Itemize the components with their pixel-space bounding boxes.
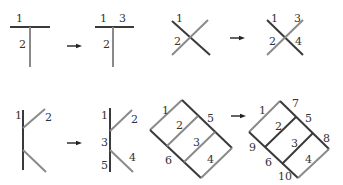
segment-label: 5 <box>101 159 108 172</box>
arrow-right-icon <box>231 114 246 118</box>
segment-label: 7 <box>292 97 299 110</box>
segment-label: 2 <box>174 35 181 48</box>
segment-label: 6 <box>165 154 172 167</box>
k-junction-after: 1 2 3 4 5 <box>101 108 138 172</box>
segment-label: 5 <box>207 112 214 125</box>
segment-label: 2 <box>176 119 183 132</box>
segment-label: 1 <box>101 109 108 122</box>
edge-bottom-right <box>298 149 329 178</box>
lower-branch <box>23 150 46 172</box>
segment-label: 9 <box>249 141 256 154</box>
diagram-canvas: 1 2 1 3 2 1 2 1 3 2 4 1 2 <box>0 0 343 185</box>
segment-label: 3 <box>119 12 126 25</box>
segment-label: 1 <box>271 12 278 25</box>
arrow-right-icon <box>67 44 82 48</box>
arrow-right-icon <box>67 141 82 145</box>
segment-label: 3 <box>291 137 298 150</box>
segment-label: 1 <box>16 12 23 25</box>
segment-label: 1 <box>259 104 266 117</box>
segment-label: 2 <box>269 35 276 48</box>
segment-label: 2 <box>45 111 52 124</box>
segment-label: 2 <box>103 38 110 51</box>
segment-label: 2 <box>19 38 26 51</box>
segment-label: 1 <box>162 104 169 117</box>
segment-label: 3 <box>193 136 200 149</box>
parallelogram-before: 1 2 5 3 6 4 <box>150 100 232 178</box>
segment-label: 2 <box>275 120 282 133</box>
upper-branch <box>23 109 45 128</box>
segment-label: 6 <box>265 156 272 169</box>
segment-label: 3 <box>294 12 301 25</box>
segment-label: 4 <box>305 153 312 166</box>
segment-label: 4 <box>129 151 136 164</box>
segment-label: 3 <box>101 136 108 149</box>
segment-label: 8 <box>323 132 330 145</box>
segment-label: 4 <box>295 35 302 48</box>
t-junction-after: 1 3 2 <box>95 12 134 67</box>
segment-label: 1 <box>176 12 183 25</box>
upper-branch <box>110 110 132 131</box>
segment-label: 1 <box>100 12 107 25</box>
arrow-right-icon <box>230 36 245 40</box>
segment-label: 10 <box>278 170 292 183</box>
k-junction-before: 1 2 <box>15 109 52 172</box>
x-crossing-before: 1 2 <box>172 12 210 55</box>
segment-label: 4 <box>207 153 214 166</box>
x-crossing-after: 1 3 2 4 <box>267 12 303 55</box>
segment-label: 1 <box>15 109 22 122</box>
edge-bottom-right <box>201 148 232 178</box>
segment-label: 2 <box>131 113 138 126</box>
segment-label: 5 <box>305 112 312 125</box>
parallelogram-after: 1 7 5 2 8 9 3 6 4 10 <box>249 97 330 183</box>
t-junction-before: 1 2 <box>10 12 50 67</box>
